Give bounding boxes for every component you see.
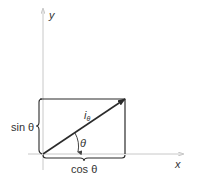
vector-label: iθ — [84, 109, 90, 122]
y-axis-label: y — [48, 9, 56, 21]
cos-brace — [43, 155, 125, 161]
sin-brace — [36, 99, 42, 154]
cos-label: cos θ — [71, 163, 97, 175]
vector-label-subscript: θ — [86, 115, 90, 122]
angle-arc-icon — [75, 133, 79, 152]
x-axis-label: x — [174, 158, 181, 170]
unit-vector-diagram: y x iθ θ sin θ cos θ — [0, 0, 198, 187]
angle-label: θ — [80, 137, 86, 149]
sin-label: sin θ — [11, 121, 34, 133]
